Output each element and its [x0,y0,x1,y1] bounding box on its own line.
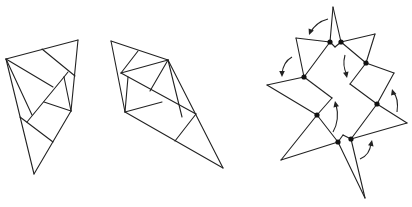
arrowhead-icon [343,72,348,78]
edge-line [333,7,341,42]
edge-line [125,102,162,112]
edge-line [304,42,330,77]
edge-line [34,111,71,174]
edge-line [42,49,75,76]
edge-line [304,77,332,98]
dissection-triangle-2 [111,41,223,168]
edge-line [377,104,407,123]
edge-line [6,59,32,115]
edge-line [64,77,71,111]
edge-line [350,84,377,104]
edge-line [351,123,407,139]
edge-line [366,34,375,63]
edge-line [281,142,338,160]
arrowhead-icon [309,28,314,35]
edge-line [296,38,304,77]
diagram-canvas [0,0,412,207]
edge-line [351,139,365,198]
hinge-dot [348,136,353,141]
arrowhead-icon [279,71,285,77]
rotate-arrow-right [393,92,398,112]
edge-line [281,115,317,160]
edge-line [341,42,366,63]
edge-line [338,142,365,198]
arrowhead-icon [333,101,338,107]
edge-line [267,85,317,115]
rotate-arrow-inner-left [333,104,337,132]
edge-line [64,72,68,77]
edge-line [168,60,182,117]
hinge-dot [314,112,319,117]
edge-line [175,114,196,141]
edge-line [121,51,138,73]
hinge-dot [327,39,332,44]
hinge-dot [335,139,340,144]
edge-line [330,7,333,42]
edge-line [351,104,377,139]
hinge-dot [374,101,379,106]
hinge-dot [363,60,368,65]
edge-line [267,77,304,85]
edge-line [296,38,330,42]
edge-line [111,41,168,60]
edge-line [350,63,366,84]
edge-line [125,77,128,112]
edge-line [27,77,64,122]
edge-line [366,63,394,73]
hinged-dissection-diagram [0,0,412,207]
edge-line [341,34,375,42]
dissection-triangle-1 [6,40,78,174]
hinged-dissection-unfolded [267,7,407,198]
edge-line [44,102,71,111]
edge-line [377,73,394,104]
edge-line [111,41,125,112]
edge-line [317,98,332,115]
hinge-dot [338,39,343,44]
arrowhead-icon [368,140,373,146]
hinge-dot [301,74,306,79]
